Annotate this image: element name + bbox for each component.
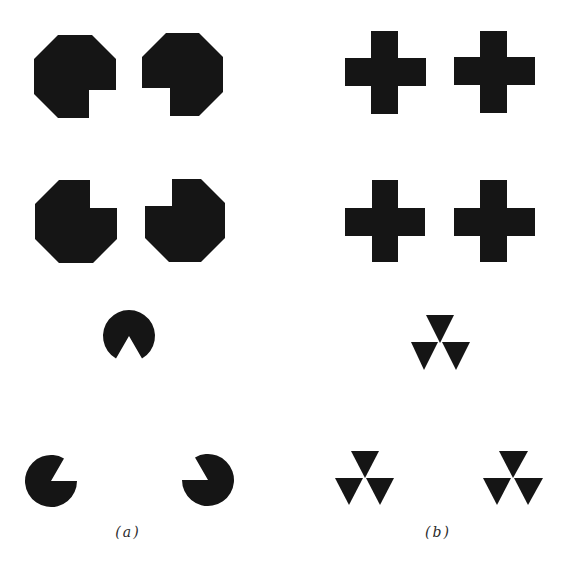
notched-octagon-bottom-left xyxy=(35,180,117,263)
trefoil-bottom-right xyxy=(483,451,543,505)
panel-a-octagons xyxy=(34,33,225,263)
notched-octagon-top-left xyxy=(34,35,116,118)
panel-b-crosses xyxy=(345,31,535,262)
panel-a-pacmen xyxy=(25,310,234,507)
pacman-bottom-left xyxy=(25,455,77,507)
pacman-top xyxy=(103,310,155,359)
notched-octagon-top-right xyxy=(142,33,223,116)
cross-top-left xyxy=(345,31,426,114)
trefoil-top xyxy=(411,315,470,370)
caption-a: (a) xyxy=(115,524,140,540)
cross-bottom-left xyxy=(345,180,425,262)
caption-b: (b) xyxy=(425,524,451,540)
notched-octagon-bottom-right xyxy=(145,179,225,262)
pacman-bottom-right xyxy=(182,454,234,506)
cross-top-right xyxy=(454,31,535,113)
illusory-contour-figure xyxy=(0,0,570,570)
cross-bottom-right xyxy=(454,180,535,262)
panel-b-trefoils xyxy=(335,315,543,505)
trefoil-bottom-left xyxy=(335,451,394,505)
